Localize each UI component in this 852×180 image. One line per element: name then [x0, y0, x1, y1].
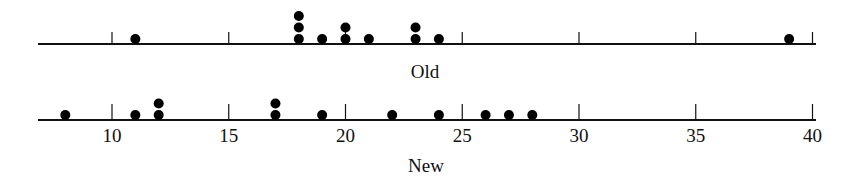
data-dot	[504, 110, 514, 120]
data-dot	[527, 110, 537, 120]
data-dot	[270, 110, 280, 120]
data-dot	[411, 34, 421, 44]
data-dot	[411, 23, 421, 33]
data-dot	[387, 110, 397, 120]
data-dot	[341, 34, 351, 44]
tick-label: 20	[336, 125, 355, 146]
data-dot	[294, 34, 304, 44]
new-dot-plot: 10152025303540	[38, 99, 822, 147]
tick-label: 30	[570, 125, 589, 146]
data-dot	[364, 34, 374, 44]
data-dot	[154, 99, 164, 109]
tick-label: 40	[803, 125, 822, 146]
data-dot	[294, 11, 304, 21]
data-dot	[481, 110, 491, 120]
data-dot	[60, 110, 70, 120]
tick-label: 10	[103, 125, 122, 146]
tick-label: 25	[453, 125, 472, 146]
data-dot	[317, 34, 327, 44]
data-dot	[294, 23, 304, 33]
data-dot	[434, 110, 444, 120]
tick-label: 15	[219, 125, 238, 146]
data-dot	[130, 110, 140, 120]
data-dot	[341, 23, 351, 33]
data-dot	[317, 110, 327, 120]
old-axis-label: Old	[411, 61, 440, 82]
data-dot	[154, 110, 164, 120]
new-axis-label: New	[408, 155, 444, 176]
data-dot	[130, 34, 140, 44]
dot-plot: 10152025303540 Old New	[0, 0, 852, 180]
data-dot	[270, 99, 280, 109]
data-dot	[784, 34, 794, 44]
old-dot-plot	[38, 11, 816, 44]
data-dot	[434, 34, 444, 44]
tick-label: 35	[686, 125, 705, 146]
